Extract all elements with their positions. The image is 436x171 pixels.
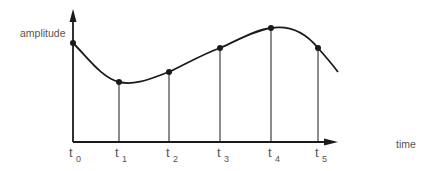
sample-point-t3 (217, 45, 223, 51)
tick-label-t0: t 0 (69, 145, 81, 164)
sample-point-t4 (268, 25, 274, 31)
sample-point-t2 (166, 69, 172, 75)
y-axis-arrow-icon (70, 9, 77, 22)
svg-text:t: t (315, 145, 319, 160)
sample-point-t1 (116, 79, 122, 85)
tick-label-t2: t 2 (166, 145, 178, 164)
x-axis-arrow-icon (324, 139, 338, 146)
svg-text:t: t (268, 145, 272, 160)
svg-text:5: 5 (322, 154, 327, 164)
svg-text:t: t (115, 145, 119, 160)
signal-curve (73, 27, 338, 83)
sample-point-t5 (315, 45, 321, 51)
tick-label-t1: t 1 (115, 145, 127, 164)
svg-text:t: t (69, 145, 73, 160)
svg-text:t: t (166, 145, 170, 160)
svg-text:4: 4 (275, 154, 280, 164)
svg-text:0: 0 (76, 154, 81, 164)
svg-text:t: t (217, 145, 221, 160)
tick-label-t4: t 4 (268, 145, 280, 164)
svg-text:1: 1 (122, 154, 127, 164)
svg-text:3: 3 (224, 154, 229, 164)
sampling-diagram: amplitude time t 0 t 1 t 2 t 3 t 4 t 5 (0, 0, 436, 171)
sample-point-t0 (70, 40, 76, 46)
y-axis-label: amplitude (20, 27, 66, 39)
svg-text:2: 2 (173, 154, 178, 164)
x-axis-label: time (396, 138, 416, 150)
tick-label-t5: t 5 (315, 145, 327, 164)
tick-label-t3: t 3 (217, 145, 229, 164)
